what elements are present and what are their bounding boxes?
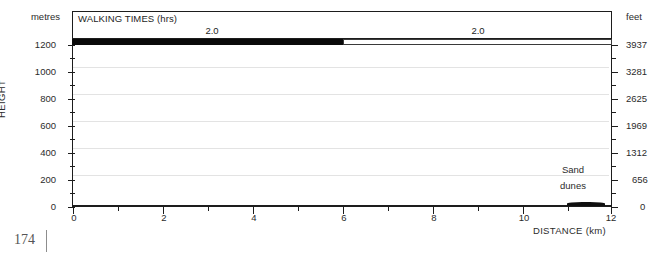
y-tick-800 (68, 99, 75, 100)
right-axis-column: feet 3937 3281 2625 1969 1312 656 0 (626, 0, 652, 261)
walking-time-segment-2-label: 2.0 (443, 25, 513, 36)
x-axis-title: DISTANCE (km) (533, 225, 606, 236)
x-tick-7 (388, 207, 389, 211)
annotation-sand-dunes-line1: Sand (543, 164, 603, 176)
y-tick-label-0: 0 (0, 201, 66, 212)
y2-tick-label-3281: 3281 (626, 66, 647, 77)
gridline-200 (73, 175, 609, 176)
y2-tick-minor-5 (611, 166, 616, 167)
walking-time-bar-hollow-segment (343, 39, 612, 45)
y-tick-label-800: 800 (0, 93, 66, 104)
y2-tick-2625 (611, 99, 618, 100)
x-tick-3 (208, 207, 209, 211)
walking-times-title: WALKING TIMES (hrs) (78, 13, 177, 24)
gridline-1000 (73, 67, 609, 68)
y2-tick-label-656: 656 (632, 174, 648, 185)
y2-tick-label-2625: 2625 (626, 93, 647, 104)
y2-tick-1312 (611, 153, 618, 154)
page-number-rule (46, 230, 47, 252)
walking-times-band: WALKING TIMES (hrs) 2.0 2.0 (72, 11, 612, 39)
y-tick-100 (70, 193, 75, 194)
y2-tick-minor-3 (611, 112, 616, 113)
y2-tick-minor-2 (611, 85, 616, 86)
y-tick-500 (70, 139, 75, 140)
y-tick-label-400: 400 (0, 147, 66, 158)
annotation-sand-dunes-line2: dunes (543, 180, 603, 192)
y2-tick-3937 (611, 45, 618, 46)
y2-tick-label-0: 0 (640, 201, 645, 212)
y-tick-400 (68, 153, 75, 154)
x-tick-label-6: 6 (329, 212, 359, 223)
y-tick-1200 (68, 45, 75, 46)
x-tick-label-0: 0 (59, 212, 89, 223)
y-axis-title: HEIGHT (0, 80, 7, 118)
y2-tick-656 (611, 180, 618, 181)
x-tick-label-10: 10 (509, 212, 539, 223)
y-tick-label-600: 600 (0, 120, 66, 131)
x-tick-5 (298, 207, 299, 211)
y-tick-1000 (68, 72, 75, 73)
x-tick-1 (118, 207, 119, 211)
y2-tick-label-3937: 3937 (626, 39, 647, 50)
gridline-800 (73, 94, 609, 95)
x-tick-label-4: 4 (239, 212, 269, 223)
y-tick-label-200: 200 (0, 174, 66, 185)
y-tick-300 (70, 166, 75, 167)
x-tick-9 (478, 207, 479, 211)
walking-time-bar-solid-segment (72, 39, 343, 45)
walking-time-segment-1-label: 2.0 (177, 25, 247, 36)
y-tick-200 (68, 180, 75, 181)
y2-tick-minor-4 (611, 139, 616, 140)
x-tick-label-2: 2 (149, 212, 179, 223)
left-axis-column: metres 1200 1000 800 600 400 200 0 HEIGH… (0, 0, 66, 261)
x-tick-label-12: 12 (596, 212, 626, 223)
y2-tick-1969 (611, 126, 618, 127)
y-tick-label-1200: 1200 (0, 39, 66, 50)
page-number: 174 (14, 232, 35, 248)
x-tick-label-8: 8 (419, 212, 449, 223)
left-axis-unit: metres (0, 11, 66, 22)
walking-times-bar (72, 39, 612, 45)
y2-tick-minor-6 (611, 193, 616, 194)
y-tick-1100 (70, 58, 75, 59)
gridline-600 (73, 121, 609, 122)
y2-tick-label-1312: 1312 (626, 147, 647, 158)
elevation-profile-figure: metres 1200 1000 800 600 400 200 0 HEIGH… (0, 0, 652, 261)
x-tick-11 (568, 207, 569, 211)
right-axis-unit: feet (626, 11, 642, 22)
y2-tick-minor-1 (611, 58, 616, 59)
elevation-profile-line (73, 205, 611, 207)
y-tick-600 (68, 126, 75, 127)
y2-tick-0 (611, 207, 618, 208)
y-tick-label-1000: 1000 (0, 66, 66, 77)
sand-dunes-profile-bump (567, 202, 605, 206)
y2-tick-3281 (611, 72, 618, 73)
gridline-400 (73, 148, 609, 149)
y-tick-700 (70, 112, 75, 113)
y-tick-900 (70, 85, 75, 86)
y2-tick-label-1969: 1969 (626, 120, 647, 131)
